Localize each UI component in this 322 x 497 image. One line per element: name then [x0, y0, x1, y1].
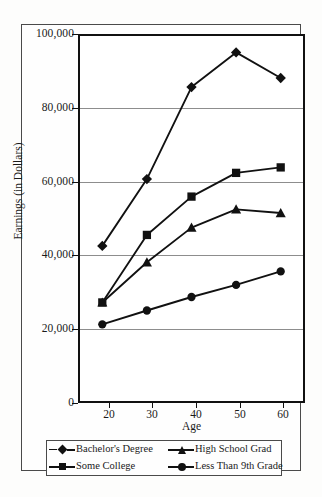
legend-label-bachelors: Bachelor's Degree — [76, 444, 153, 455]
data-point-3-0 — [98, 320, 106, 328]
series-line-2 — [102, 167, 280, 302]
data-point-2-2 — [187, 192, 195, 200]
circle-marker-icon — [168, 461, 194, 473]
data-point-3-3 — [232, 281, 240, 289]
triangle-marker-icon — [168, 444, 194, 456]
legend-entry-bachelors[interactable]: Bachelor's Degree — [47, 444, 165, 456]
legend-label-some-college: Some College — [76, 461, 135, 472]
y-axis-title: Earnings (in Dollars) — [12, 111, 24, 271]
x-tick-label-20: 20 — [94, 409, 124, 421]
y-tick-label-40000: 40,000 — [42, 249, 74, 261]
data-point-0-0 — [97, 241, 107, 251]
data-point-0-4 — [276, 73, 286, 83]
diamond-marker-icon — [49, 444, 75, 456]
y-tick-label-100000: 100,000 — [36, 28, 74, 40]
x-axis-title: Age — [78, 420, 305, 432]
plot-area — [78, 34, 305, 403]
square-marker-icon — [49, 461, 75, 473]
x-tick-label-60: 60 — [268, 409, 298, 421]
series-layer — [80, 36, 303, 401]
data-point-2-3 — [232, 169, 240, 177]
series-line-0 — [102, 52, 280, 245]
data-point-0-1 — [142, 174, 152, 184]
data-point-3-4 — [277, 267, 285, 275]
chart-figure: 100,000 80,000 60,000 40,000 20,000 0 Ea… — [0, 0, 322, 497]
x-tick-label-30: 30 — [137, 409, 167, 421]
legend-entry-less-than-9th[interactable]: Less Than 9th Grade — [165, 461, 283, 473]
data-point-3-1 — [143, 306, 151, 314]
legend-label-less-than-9th: Less Than 9th Grade — [195, 461, 283, 472]
data-point-2-4 — [277, 163, 285, 171]
x-tick-label-40: 40 — [181, 409, 211, 421]
y-tick-mark-0 — [72, 403, 78, 404]
data-point-2-1 — [143, 231, 151, 239]
y-tick-label-20000: 20,000 — [42, 323, 74, 335]
data-point-3-2 — [187, 293, 195, 301]
legend-label-high-school: High School Grad — [195, 444, 271, 455]
chart-legend: Bachelor's Degree High School Grad Some … — [46, 440, 282, 476]
x-tick-label-50: 50 — [225, 409, 255, 421]
legend-entry-high-school[interactable]: High School Grad — [165, 444, 283, 456]
y-tick-label-80000: 80,000 — [42, 102, 74, 114]
y-tick-label-60000: 60,000 — [42, 176, 74, 188]
legend-entry-some-college[interactable]: Some College — [47, 461, 165, 473]
data-point-2-0 — [98, 298, 106, 306]
